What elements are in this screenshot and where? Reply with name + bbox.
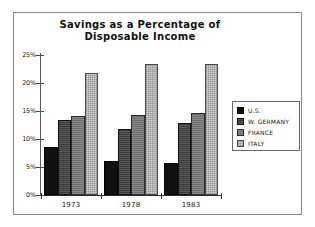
bar-france-1983: [191, 113, 205, 195]
x-axis-tick-label: 1983: [167, 201, 215, 209]
legend-item-u-s[interactable]: U.S.: [237, 105, 299, 116]
plot-area: [41, 55, 221, 195]
legend-item-w-germany[interactable]: W. GERMANY: [237, 116, 299, 127]
chart-title: Savings as a Percentage of Disposable In…: [40, 19, 240, 43]
bar-france-1978: [131, 115, 145, 195]
chart-legend: U.S.W. GERMANYFRANCEITALY: [232, 101, 300, 151]
y-axis-tick-label: 15%: [16, 107, 36, 115]
legend-swatch-icon: [237, 118, 244, 125]
bar-italy-1978: [145, 64, 159, 195]
legend-label: ITALY: [248, 140, 264, 147]
chart-figure: Savings as a Percentage of Disposable In…: [0, 0, 315, 227]
y-axis-tick-label: 10%: [16, 135, 36, 143]
x-axis-line: [40, 195, 222, 196]
legend-label: U.S.: [248, 107, 261, 114]
y-axis-tick-label: 20%: [16, 79, 36, 87]
x-axis-tick: [221, 193, 222, 199]
legend-swatch-icon: [237, 129, 244, 136]
bar-u-s-1973: [44, 147, 58, 195]
y-axis-tick-label: 0%: [16, 191, 36, 199]
x-axis-tick-label: 1973: [47, 201, 95, 209]
y-axis-tick-label: 5%: [16, 163, 36, 171]
bar-france-1973: [71, 116, 85, 195]
legend-item-france[interactable]: FRANCE: [237, 127, 299, 138]
bar-u-s-1983: [164, 163, 178, 195]
x-axis-tick-label: 1978: [107, 201, 155, 209]
y-axis-tick: [36, 195, 44, 196]
y-axis-tick-label: 25%: [16, 51, 36, 59]
bar-w-germany-1983: [178, 123, 192, 195]
legend-label: FRANCE: [248, 129, 273, 136]
legend-swatch-icon: [237, 107, 244, 114]
legend-item-italy[interactable]: ITALY: [237, 138, 299, 149]
bar-w-germany-1978: [118, 129, 132, 195]
legend-label: W. GERMANY: [248, 118, 289, 125]
legend-swatch-icon: [237, 140, 244, 147]
bar-u-s-1978: [104, 161, 118, 195]
bar-italy-1973: [85, 73, 99, 195]
bar-italy-1983: [205, 64, 219, 195]
bar-w-germany-1973: [58, 120, 72, 195]
